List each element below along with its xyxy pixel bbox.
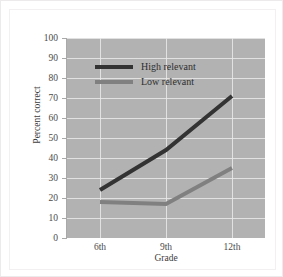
legend-item-high-relevant: High relevant bbox=[95, 60, 196, 73]
legend-swatch-high-relevant bbox=[95, 65, 133, 69]
legend-item-low-relevant: Low relevant bbox=[95, 75, 196, 88]
legend-label-high-relevant: High relevant bbox=[141, 61, 196, 72]
legend-label-low-relevant: Low relevant bbox=[141, 76, 194, 87]
screenshot-root: Percent correct 1009080706050403020100 6… bbox=[0, 0, 283, 277]
y-tick-label: 20 bbox=[16, 193, 58, 203]
y-tick-label: 70 bbox=[16, 93, 58, 103]
y-tick-label: 80 bbox=[16, 73, 58, 83]
y-tick-label: 40 bbox=[16, 153, 58, 163]
y-tick-mark bbox=[62, 238, 67, 239]
x-tick-label: 9th bbox=[143, 242, 189, 252]
y-tick-label: 90 bbox=[16, 53, 58, 63]
legend-swatch-low-relevant bbox=[95, 80, 133, 84]
chart-figure: Percent correct 1009080706050403020100 6… bbox=[9, 9, 276, 270]
y-tick-label: 10 bbox=[16, 213, 58, 223]
y-tick-label: 0 bbox=[16, 233, 58, 243]
y-tick-label: 100 bbox=[16, 33, 58, 43]
y-tick-label: 50 bbox=[16, 133, 58, 143]
y-tick-label: 30 bbox=[16, 173, 58, 183]
series-line-high-relevant bbox=[100, 96, 232, 190]
y-tick-label: 60 bbox=[16, 113, 58, 123]
chart-legend: High relevant Low relevant bbox=[95, 60, 196, 90]
x-axis-title: Grade bbox=[67, 253, 265, 263]
x-tick-label: 12th bbox=[209, 242, 255, 252]
series-line-low-relevant bbox=[100, 168, 232, 204]
x-tick-label: 6th bbox=[77, 242, 123, 252]
